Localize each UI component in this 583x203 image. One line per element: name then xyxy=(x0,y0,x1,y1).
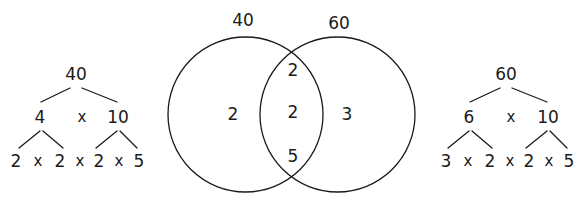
right-tree-prime-3: 2 xyxy=(524,153,535,170)
left-tree-operator-2: x xyxy=(76,154,85,169)
venn-left-circle-title: 40 xyxy=(232,12,254,29)
left-tree-prime-2: 2 xyxy=(55,153,66,170)
left-tree-branch-10-right xyxy=(120,131,137,148)
venn-left-only-item-1: 2 xyxy=(228,106,239,123)
venn-circle-left xyxy=(168,37,323,192)
right-tree-operator-3: x xyxy=(545,154,554,169)
right-tree-root-label: 60 xyxy=(495,66,517,83)
left-tree-root-label: 40 xyxy=(65,66,87,83)
right-tree-operator-1: x xyxy=(464,154,473,169)
left-tree-branch-root-right xyxy=(82,88,117,102)
venn-intersection-item-3: 5 xyxy=(288,148,299,165)
figure-canvas: 40 4 x 10 2 x 2 x 2 x 5 40 60 2 2 2 5 3 … xyxy=(0,0,583,203)
right-tree-node-10: 10 xyxy=(537,109,559,126)
venn-intersection-item-1: 2 xyxy=(288,62,299,79)
right-tree-prime-4: 5 xyxy=(564,153,575,170)
left-tree-operator-3: x xyxy=(115,154,124,169)
left-tree-prime-4: 5 xyxy=(134,153,145,170)
venn-right-circle-title: 60 xyxy=(328,15,350,32)
right-tree-branch-root-left xyxy=(470,88,500,102)
left-tree-branch-10-left xyxy=(96,131,117,148)
right-tree-node-6: 6 xyxy=(464,109,475,126)
venn-right-only-item-1: 3 xyxy=(342,106,353,123)
right-tree-prime-2: 2 xyxy=(485,153,496,170)
left-tree-node-10: 10 xyxy=(107,109,129,126)
right-tree-branch-6-right xyxy=(472,131,492,148)
right-tree-branch-root-right xyxy=(512,88,547,102)
left-tree-operator-1: x xyxy=(34,154,43,169)
venn-circle-right xyxy=(260,37,415,192)
left-tree-prime-3: 2 xyxy=(94,153,105,170)
left-tree-operator-top: x xyxy=(78,110,87,125)
right-tree-branch-10-right xyxy=(550,131,567,148)
left-tree-branch-4-right xyxy=(43,131,63,148)
right-tree-prime-1: 3 xyxy=(441,153,452,170)
right-tree-branch-10-left xyxy=(526,131,547,148)
right-tree-operator-2: x xyxy=(506,154,515,169)
left-tree-branch-root-left xyxy=(41,88,70,102)
venn-intersection-item-2: 2 xyxy=(288,104,299,121)
right-tree-operator-top: x xyxy=(507,110,516,125)
right-tree-branch-6-left xyxy=(448,131,469,148)
left-tree-prime-1: 2 xyxy=(11,153,22,170)
left-tree-node-4: 4 xyxy=(35,109,46,126)
left-tree-branch-4-left xyxy=(19,131,40,148)
